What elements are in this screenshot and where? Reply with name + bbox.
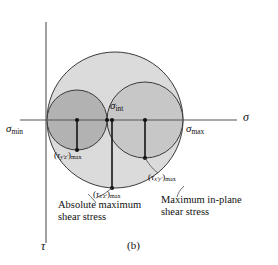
absolute-max-line1: Absolute maximum <box>58 199 141 211</box>
absolute-maximum-shear-stress-caption: Absolute maximum shear stress <box>58 199 141 223</box>
sigma-min-sub: min <box>11 127 23 136</box>
sigma-max-sub: max <box>191 127 204 136</box>
sigma-int-label: σint <box>110 99 123 113</box>
dot-sigma-int <box>105 118 109 122</box>
tau-axis-label: τ <box>41 240 45 254</box>
tau-yz-sub-max: max <box>71 154 82 160</box>
dot-center-yz <box>75 118 79 122</box>
absolute-max-line2: shear stress <box>58 211 141 223</box>
dot-center-xy <box>143 118 147 122</box>
sigma-max-label: σmax <box>186 122 204 136</box>
figure-caption: (b) <box>127 239 140 252</box>
tau-xy-max-label: (τx′y′)max <box>148 172 176 183</box>
max-in-plane-line2: shear stress <box>161 206 242 218</box>
dot-center-xz <box>110 118 114 122</box>
tau-yz-sub-italic: y′z′ <box>60 154 68 160</box>
tau-xy-sub-max: max <box>165 176 176 182</box>
max-in-plane-line1: Maximum in-plane <box>161 194 242 206</box>
maximum-in-plane-shear-stress-caption: Maximum in-plane shear stress <box>161 194 242 218</box>
sigma-axis-label: σ <box>243 111 249 125</box>
sigma-min-label: σmin <box>6 122 23 136</box>
tau-yz-max-label: (τy′z′)max <box>54 150 82 161</box>
sigma-int-sub: int <box>115 104 123 113</box>
mohrs-circle-figure <box>0 0 278 265</box>
